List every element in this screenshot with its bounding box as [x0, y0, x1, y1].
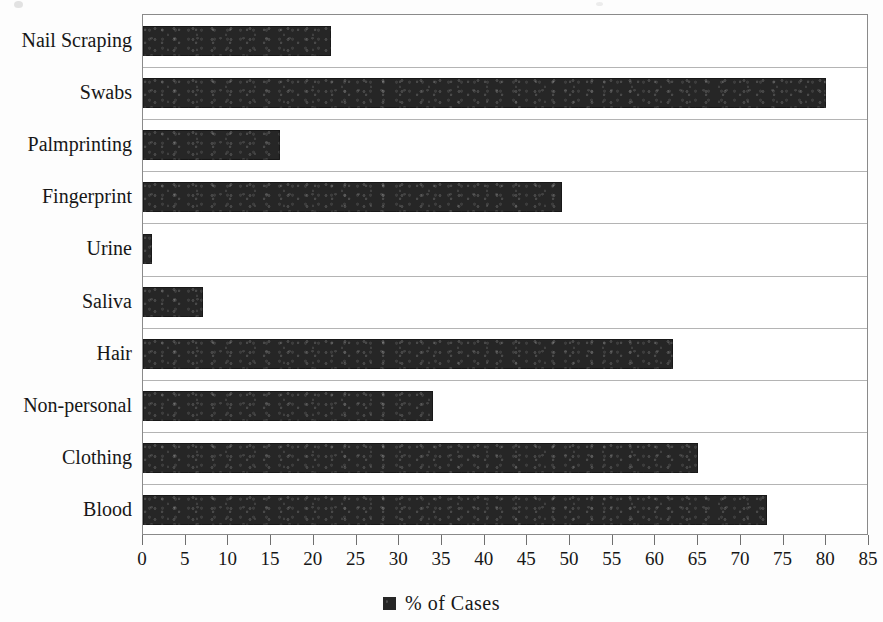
legend-label: % of Cases [405, 592, 500, 615]
x-axis-tick [612, 535, 613, 545]
category-label: Non-personal [0, 394, 132, 417]
x-axis-tick-label: 20 [303, 548, 322, 570]
bar-row [143, 287, 867, 317]
x-axis-tick [270, 535, 271, 545]
x-axis-tick [313, 535, 314, 545]
bar-row [143, 78, 867, 108]
bar-row [143, 182, 867, 212]
x-axis-tick-label: 40 [474, 548, 493, 570]
chart-legend: % of Cases [0, 592, 883, 615]
gridline [143, 276, 867, 277]
bar-row [143, 234, 867, 264]
x-axis-tick [441, 535, 442, 545]
x-axis-tick-label: 75 [773, 548, 792, 570]
gridline [143, 119, 867, 120]
bar[interactable] [143, 287, 203, 317]
x-axis-tick-label: 50 [560, 548, 579, 570]
legend-swatch-icon [383, 597, 396, 610]
x-axis-tick-label: 30 [389, 548, 408, 570]
gridline [143, 67, 867, 68]
category-label: Urine [0, 237, 132, 260]
x-axis-tick [142, 535, 143, 545]
chart-page: Nail ScrapingSwabsPalmprintingFingerprin… [0, 0, 883, 622]
x-axis-tick-label: 70 [730, 548, 749, 570]
x-axis-tick-label: 80 [816, 548, 835, 570]
x-axis-tick [227, 535, 228, 545]
x-axis-tick [740, 535, 741, 545]
bar-row [143, 391, 867, 421]
bar[interactable] [143, 443, 698, 473]
bar[interactable] [143, 130, 280, 160]
x-axis-tick-label: 0 [137, 548, 147, 570]
bar[interactable] [143, 495, 767, 525]
scan-artifact-icon [14, 1, 23, 8]
x-axis-tick-label: 85 [859, 548, 878, 570]
bar-row [143, 339, 867, 369]
gridline [143, 171, 867, 172]
gridline [143, 328, 867, 329]
bar[interactable] [143, 26, 331, 56]
gridline [143, 223, 867, 224]
scan-artifact-secondary-icon [596, 2, 603, 6]
bar[interactable] [143, 234, 152, 264]
x-axis-tick-label: 65 [688, 548, 707, 570]
x-axis-tick-label: 35 [431, 548, 450, 570]
x-axis-tick [185, 535, 186, 545]
x-axis-tick [783, 535, 784, 545]
x-axis-tick [398, 535, 399, 545]
x-axis-tick-label: 10 [218, 548, 237, 570]
x-axis-tick [484, 535, 485, 545]
x-axis-tick [868, 535, 869, 545]
x-axis-tick [654, 535, 655, 545]
bar-row [143, 26, 867, 56]
bar-row [143, 130, 867, 160]
category-label: Blood [0, 498, 132, 521]
category-label: Swabs [0, 81, 132, 104]
category-label: Hair [0, 342, 132, 365]
x-axis-tick-label: 45 [517, 548, 536, 570]
bar-row [143, 495, 867, 525]
bar[interactable] [143, 78, 826, 108]
x-axis-tick-label: 25 [346, 548, 365, 570]
category-label: Fingerprint [0, 185, 132, 208]
bar[interactable] [143, 182, 562, 212]
x-axis-tick [697, 535, 698, 545]
category-label: Palmprinting [0, 133, 132, 156]
gridline [143, 380, 867, 381]
x-axis-tick [526, 535, 527, 545]
gridline [143, 484, 867, 485]
bar[interactable] [143, 391, 433, 421]
category-label: Saliva [0, 290, 132, 313]
x-axis-tick [356, 535, 357, 545]
gridline [143, 432, 867, 433]
x-axis-tick [569, 535, 570, 545]
bar-row [143, 443, 867, 473]
x-axis-tick [825, 535, 826, 545]
category-label: Clothing [0, 446, 132, 469]
x-axis-tick-label: 55 [602, 548, 621, 570]
plot-area [142, 14, 868, 535]
bar[interactable] [143, 339, 673, 369]
category-label: Nail Scraping [0, 29, 132, 52]
x-axis-tick-label: 15 [261, 548, 280, 570]
x-axis-tick-label: 60 [645, 548, 664, 570]
x-axis-tick-label: 5 [180, 548, 190, 570]
